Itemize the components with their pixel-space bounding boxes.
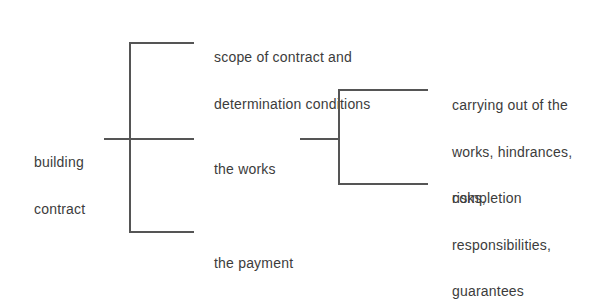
node-label-line: carrying out of the bbox=[452, 98, 572, 114]
node-label-line: risks, bbox=[452, 191, 551, 207]
node-label-line: the works bbox=[214, 162, 276, 178]
connector-level2-vertical bbox=[338, 89, 340, 185]
connector-to-scope bbox=[129, 42, 194, 44]
connector-to-payment bbox=[129, 231, 194, 233]
node-label-line: determination conditions bbox=[214, 97, 371, 113]
connector-root-horizontal bbox=[104, 138, 194, 140]
node-label-line: scope of contract and bbox=[214, 50, 371, 66]
connector-level1-vertical bbox=[129, 42, 131, 233]
node-risks: risks, responsibilities, guarantees bbox=[452, 160, 551, 303]
node-scope-of-contract: scope of contract and determination cond… bbox=[214, 19, 371, 143]
node-label-line: responsibilities, bbox=[452, 238, 551, 254]
node-the-works: the works bbox=[214, 131, 276, 209]
node-label-line: contract bbox=[34, 202, 85, 218]
connector-to-carrying-out bbox=[338, 89, 428, 91]
node-label-line: guarantees bbox=[452, 284, 551, 300]
node-building-contract: building contract bbox=[34, 124, 85, 248]
node-label-line: works, hindrances, bbox=[452, 145, 572, 161]
connector-to-risks bbox=[338, 183, 428, 185]
node-label-line: building bbox=[34, 155, 85, 171]
node-the-payment: the payment bbox=[214, 225, 293, 303]
connector-works-horizontal bbox=[300, 138, 340, 140]
node-label-line: the payment bbox=[214, 256, 293, 272]
